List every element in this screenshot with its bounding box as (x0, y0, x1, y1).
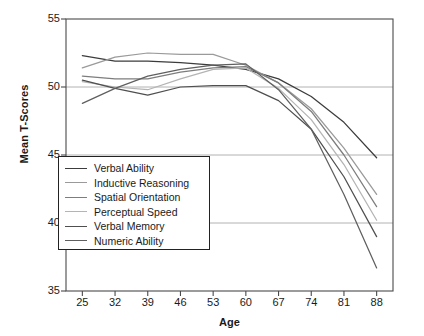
legend-item-4: Verbal Memory (65, 219, 209, 234)
x-axis-title: Age (66, 316, 393, 328)
legend-swatch-icon (65, 182, 87, 183)
y-tick-label: 55 (0, 12, 60, 24)
legend-label: Numeric Ability (94, 235, 163, 247)
legend-item-1: Inductive Reasoning (65, 176, 209, 191)
y-tick-label: 50 (0, 80, 60, 92)
legend-label: Perceptual Speed (94, 206, 177, 218)
legend-label: Spatial Orientation (94, 191, 180, 203)
chart-legend: Verbal AbilityInductive ReasoningSpatial… (58, 156, 210, 250)
legend-swatch-icon (65, 168, 87, 169)
legend-swatch-icon (65, 226, 87, 227)
legend-item-0: Verbal Ability (65, 161, 209, 176)
legend-swatch-icon (65, 211, 87, 212)
legend-label: Verbal Memory (94, 220, 165, 232)
legend-item-3: Perceptual Speed (65, 205, 209, 220)
legend-item-5: Numeric Ability (65, 234, 209, 249)
legend-label: Inductive Reasoning (94, 177, 189, 189)
y-tick-label: 40 (0, 216, 60, 228)
legend-label: Verbal Ability (94, 162, 154, 174)
legend-item-2: Spatial Orientation (65, 190, 209, 205)
legend-swatch-icon (65, 240, 87, 241)
x-tick-label: 88 (357, 296, 397, 308)
series-line-0 (82, 56, 376, 158)
y-tick-label: 35 (0, 284, 60, 296)
chart-figure: Mean T-Scores Age 5550454035 25323946536… (0, 0, 424, 336)
legend-swatch-icon (65, 197, 87, 198)
y-tick-label: 45 (0, 148, 60, 160)
